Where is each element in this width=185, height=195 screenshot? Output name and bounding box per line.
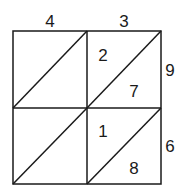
cell-r0c1-tens: 2 xyxy=(98,47,107,64)
right-digit-2: 6 xyxy=(165,138,174,155)
cell-r1c1-ones: 8 xyxy=(129,160,138,177)
top-digit-1: 4 xyxy=(45,13,54,30)
cell-r1c1-tens: 1 xyxy=(98,123,107,140)
cell-r0c1-ones: 7 xyxy=(129,83,138,100)
lattice-grid xyxy=(0,0,185,195)
top-digit-2: 3 xyxy=(119,13,128,30)
right-digit-1: 9 xyxy=(165,62,174,79)
